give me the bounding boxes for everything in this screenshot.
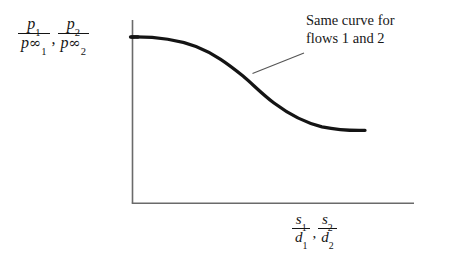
y-den-2-symbol: p [61,34,69,51]
y-label-separator: , [50,31,58,47]
x-num-2-subscript: 2 [328,222,333,233]
x-axis-label: s1 d1 , s2 d2 [292,212,337,245]
y-num-1-subscript: 1 [35,27,40,38]
annotation-leader-line [253,53,305,74]
x-label-separator: , [310,226,318,241]
x-axis-fraction-2: s2 d2 [318,212,336,245]
y-fraction-1-denominator: p∞1 [18,34,50,51]
y-num-2-symbol: p [67,15,75,32]
y-axis-fraction-1: p1 p∞1 [18,16,50,51]
x-num-1-subscript: 1 [302,222,307,233]
x-fraction-2-numerator: s2 [318,212,336,229]
x-num-2-symbol: s [322,211,328,227]
annotation-line-1: Same curve for [306,12,395,30]
x-den-2-subscript: 2 [329,240,334,251]
x-num-1-symbol: s [296,211,302,227]
curve-annotation: Same curve for flows 1 and 2 [306,12,395,47]
annotation-line-2: flows 1 and 2 [306,30,395,48]
y-num-1-symbol: p [27,15,35,32]
x-axis-fraction-1: s1 d1 [292,212,310,245]
x-fraction-1-numerator: s1 [292,212,310,229]
y-fraction-2-numerator: p2 [58,16,90,34]
y-den-1-subscript: 1 [41,46,46,57]
data-curve-sigmoid [132,37,365,130]
axis-frame [132,20,414,204]
y-fraction-1-numerator: p1 [18,16,50,34]
x-den-1-subscript: 1 [303,240,308,251]
y-axis-fraction-2: p2 p∞2 [58,16,90,51]
y-den-1-symbol: p [21,34,29,51]
y-den-2-subscript: 2 [81,46,86,57]
figure-container: p1 p∞1 , p2 p∞2 s1 d1 , s2 d2 Same curve… [0,0,454,272]
y-axis-label: p1 p∞1 , p2 p∞2 [18,16,89,51]
y-num-2-subscript: 2 [75,27,80,38]
y-fraction-2-denominator: p∞2 [58,34,90,51]
